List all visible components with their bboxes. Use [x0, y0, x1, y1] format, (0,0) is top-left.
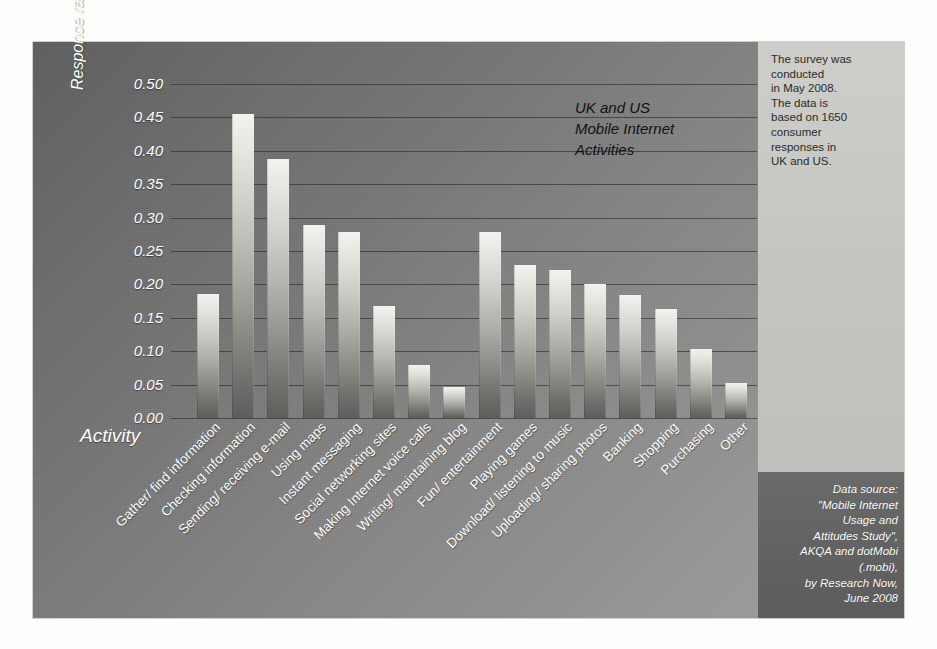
y-axis-tick-label: 0.35 [134, 175, 163, 192]
survey-note: The survey was conducted in May 2008. Th… [771, 52, 899, 169]
scanned-page: Responce ratio scale =[0..1] Activity UK… [0, 0, 937, 649]
y-axis-tick-label: 0.10 [134, 342, 163, 359]
y-axis-tick-label: 0.40 [134, 142, 163, 159]
y-axis-tick-label: 0.30 [134, 209, 163, 226]
y-axis-tick-label: 0.20 [134, 276, 163, 293]
y-axis-tick-label: 0.25 [134, 242, 163, 259]
bar [197, 294, 219, 418]
y-axis-tick-label: 0.05 [134, 376, 163, 393]
y-axis-tick-label: 0.45 [134, 109, 163, 126]
y-axis-title-main: Responce ratio [69, 0, 86, 90]
bar [232, 114, 254, 418]
data-source-note: Data source: "Mobile Internet Usage and … [762, 482, 898, 607]
x-axis-category-labels: Gather/ find informationChecking informa… [171, 418, 771, 618]
y-axis-tick-label: 0.15 [134, 309, 163, 326]
chart-title: UK and US Mobile Internet Activities [575, 97, 674, 160]
x-axis-title: Activity [80, 425, 140, 447]
y-axis-title: Responce ratio scale =[0..1] [69, 0, 87, 90]
chart-figure: Responce ratio scale =[0..1] Activity UK… [33, 42, 904, 618]
y-axis-tick-label: 0.50 [134, 75, 163, 92]
y-axis-tick-label: 0.00 [134, 409, 163, 426]
